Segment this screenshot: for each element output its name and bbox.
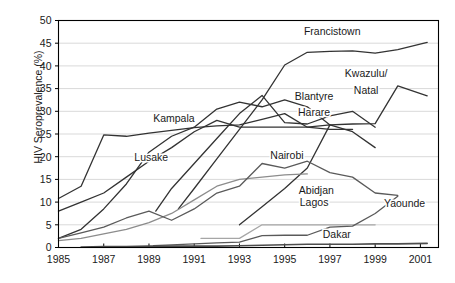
x-tick-label: 1997 — [318, 253, 342, 265]
x-tick-label: 2001 — [409, 253, 433, 265]
series-label-francistown: Francistown — [304, 25, 361, 37]
series-label-dakar: Dakar — [323, 228, 352, 240]
series-label-yaounde: Yaounde — [384, 197, 425, 209]
x-tick-label: 1985 — [47, 253, 71, 265]
x-tick-label: 1989 — [137, 253, 161, 265]
y-tick-label: 50 — [40, 14, 52, 26]
y-tick-label: 10 — [40, 196, 52, 208]
x-tick-label: 1991 — [183, 253, 207, 265]
x-tick-label: 1999 — [363, 253, 387, 265]
y-tick-labels: 05101520253035404550 — [40, 14, 52, 253]
series-label-nairobi: Nairobi — [270, 149, 303, 161]
x-tick-label: 1995 — [273, 253, 297, 265]
y-tick-label: 40 — [40, 60, 52, 72]
series-label-kwazulu-natal: Kwazulu/ — [345, 67, 388, 79]
series-label-harare: Harare — [298, 106, 330, 118]
chart-plot-area: 05101520253035404550 1985198719891991199… — [0, 0, 455, 283]
y-tick-label: 45 — [40, 37, 52, 49]
x-tick-label: 1993 — [228, 253, 252, 265]
series-labels: FrancistownFrancistownKwazulu/Kwazulu/Na… — [134, 25, 425, 239]
y-tick-label: 5 — [46, 219, 52, 231]
hiv-seroprevalence-chart: HIV Seroprevalence (%) 05101520253035404… — [0, 0, 455, 283]
series-label-kwazulu-natal: Natal — [354, 84, 379, 96]
series-label-lagos: Lagos — [300, 196, 329, 208]
y-tick-label: 35 — [40, 82, 52, 94]
y-tick-label: 30 — [40, 105, 52, 117]
series-label-abidjan: Abidjan — [299, 184, 334, 196]
series-line-nairobi — [59, 174, 308, 241]
series-label-lusake: Lusake — [134, 151, 168, 163]
series-line-yaounde — [154, 196, 398, 245]
x-tick-label: 1987 — [92, 253, 116, 265]
y-tick-label: 20 — [40, 151, 52, 163]
y-tick-label: 25 — [40, 128, 52, 140]
y-tick-label: 0 — [46, 241, 52, 253]
y-tick-label: 15 — [40, 173, 52, 185]
x-tick-labels: 198519871989199119931995199719992001 — [47, 253, 432, 265]
series-label-kampala: Kampala — [153, 112, 195, 124]
series-label-blantyre: Blantyre — [295, 90, 334, 102]
